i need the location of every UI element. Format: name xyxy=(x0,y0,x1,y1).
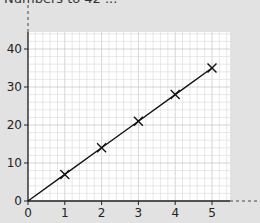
paper-background xyxy=(28,32,230,201)
graph-paper xyxy=(28,32,230,201)
x-tick-label: 5 xyxy=(208,206,216,220)
y-tick-label: 20 xyxy=(7,118,22,132)
y-tick-label: 0 xyxy=(14,194,22,208)
x-tick-label: 3 xyxy=(135,206,143,220)
x-tick-label: 2 xyxy=(98,206,106,220)
x-tick-label: 0 xyxy=(24,206,32,220)
y-tick-label: 40 xyxy=(7,42,22,56)
x-tick-label: 1 xyxy=(61,206,69,220)
y-tick-label: 10 xyxy=(7,156,22,170)
y-tick-label: 30 xyxy=(7,80,22,94)
line-chart: 012345010203040 xyxy=(0,0,260,223)
x-tick-label: 4 xyxy=(171,206,179,220)
